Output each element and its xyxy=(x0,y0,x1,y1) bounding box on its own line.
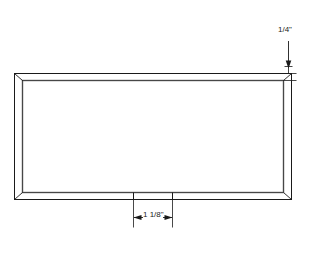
frame-outer-outline xyxy=(15,74,292,200)
frame-inner-rect-edge xyxy=(23,81,284,193)
frame-outer-rect xyxy=(15,74,292,200)
thickness-dimension-label: 1/4" xyxy=(278,26,292,34)
frame-inner-outline xyxy=(23,81,284,193)
miter-top-right xyxy=(284,74,292,81)
frame-drawing-svg xyxy=(0,0,313,270)
miter-bottom-right xyxy=(284,193,292,200)
miter-top-left xyxy=(15,74,23,81)
width-dimension-label: 1 1/8" xyxy=(143,211,164,219)
width-arrowhead-right xyxy=(165,215,173,220)
drawing-canvas: 1/4" 1 1/8" xyxy=(0,0,313,270)
miter-joints xyxy=(15,74,292,200)
width-arrowhead-left xyxy=(134,215,142,220)
frame-inner-rect xyxy=(23,81,284,193)
miter-bottom-left xyxy=(15,193,23,200)
thickness-arrowhead-down xyxy=(286,61,292,69)
bottom-rail-segment-ticks xyxy=(134,193,173,200)
